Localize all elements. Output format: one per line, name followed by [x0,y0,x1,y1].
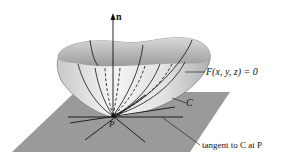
diagram-svg [0,0,287,162]
curve-label: C [186,97,193,108]
tangent-label: tangent to C at P [202,140,262,150]
surface-label: F(x, y, z) = 0 [206,66,258,77]
point-label: P [109,119,115,129]
normal-arrowhead [111,13,116,20]
tangent-plane-diagram: n F(x, y, z) = 0 C P tangent to C at P [0,0,287,162]
surface-opening [58,38,210,67]
point-P [111,114,115,118]
normal-label: n [116,11,122,22]
